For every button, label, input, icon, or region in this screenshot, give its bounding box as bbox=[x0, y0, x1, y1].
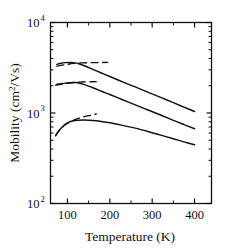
y-axis-label-text: Mobility (cm2/Vs) bbox=[7, 63, 22, 162]
x-tick-label: 400 bbox=[185, 208, 204, 222]
svg-text:2: 2 bbox=[41, 194, 45, 204]
x-tick-label: 200 bbox=[100, 208, 119, 222]
x-tick-label: 300 bbox=[143, 208, 162, 222]
svg-text:10: 10 bbox=[27, 107, 40, 121]
x-tick-label: 100 bbox=[58, 208, 77, 222]
y-axis-label: Mobility (cm2/Vs) bbox=[7, 63, 22, 162]
x-axis-label: Temperature (K) bbox=[85, 229, 175, 244]
chart-figure: 100200300400 102103104 Temperature (K) M… bbox=[0, 0, 249, 249]
svg-text:10: 10 bbox=[27, 197, 40, 211]
mobility-vs-temperature-chart: 100200300400 102103104 Temperature (K) M… bbox=[0, 0, 249, 249]
svg-text:10: 10 bbox=[27, 16, 40, 30]
svg-text:3: 3 bbox=[41, 103, 45, 113]
